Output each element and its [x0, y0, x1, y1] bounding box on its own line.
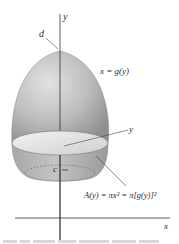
bottom-bound-label-c: c [53, 164, 57, 174]
x-axis-label: x [163, 221, 168, 231]
slice-y-label: y [128, 124, 133, 134]
cross-section-disc [12, 131, 108, 155]
y-axis-label: y [62, 11, 68, 22]
curve-label: x = g(y) [99, 66, 129, 76]
figure-caption-cropped [0, 238, 179, 244]
solid-of-revolution-diagram: y d x = g(y) y c A(y) = πx² = π[g(y)]² x [0, 0, 179, 244]
area-formula-label: A(y) = πx² = π[g(y)]² [83, 190, 157, 200]
leader-d [46, 38, 58, 49]
top-bound-label-d: d [39, 28, 45, 39]
